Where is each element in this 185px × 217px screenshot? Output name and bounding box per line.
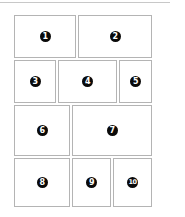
number-badge-1: 1	[40, 31, 51, 42]
number-badge-3: 3	[30, 76, 41, 87]
number-badge-4: 4	[82, 76, 93, 87]
panel-9: 9	[72, 158, 111, 207]
number-badge-8: 8	[37, 177, 48, 188]
panel-5: 5	[119, 60, 152, 103]
panel-10: 10	[113, 158, 152, 207]
panel-8: 8	[14, 158, 70, 207]
panel-1: 1	[14, 15, 76, 58]
number-badge-2: 2	[110, 31, 121, 42]
panel-4: 4	[58, 60, 117, 103]
number-badge-7: 7	[107, 125, 118, 136]
panel-3: 3	[14, 60, 56, 103]
panel-2: 2	[78, 15, 152, 58]
number-badge-6: 6	[37, 125, 48, 136]
number-badge-5: 5	[130, 76, 141, 87]
panel-7: 7	[72, 105, 152, 156]
panel-6: 6	[14, 105, 70, 156]
number-badge-10: 10	[127, 177, 138, 188]
number-badge-9: 9	[86, 177, 97, 188]
top-divider	[0, 2, 170, 3]
